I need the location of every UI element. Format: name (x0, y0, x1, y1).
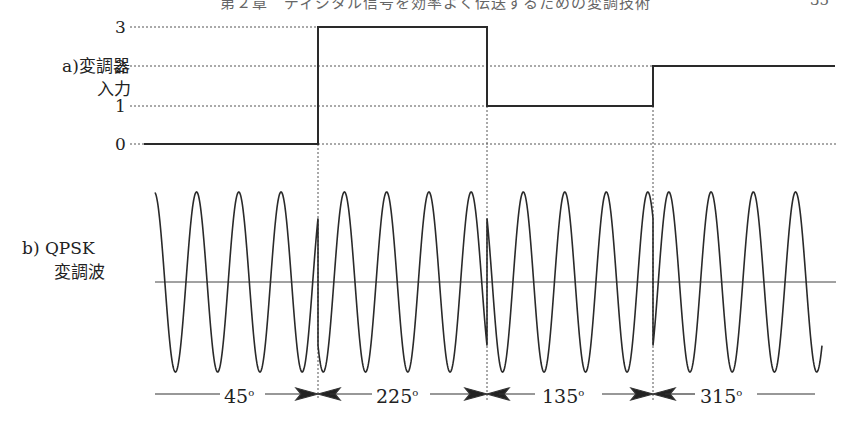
phase-value: 315 (700, 385, 736, 407)
qpsk-diagram (0, 0, 848, 423)
phase-value: 45 (224, 385, 248, 407)
phase-value: 135 (542, 385, 578, 407)
degree-mark: o (248, 387, 254, 398)
degree-mark: o (412, 387, 418, 398)
modulator-input-step-line (144, 27, 835, 144)
phase-value: 225 (376, 385, 412, 407)
phase-label-135: 135o (540, 383, 586, 406)
gridlines (130, 27, 838, 400)
degree-mark: o (736, 387, 742, 398)
degree-mark: o (578, 387, 584, 398)
phase-label-225: 225o (374, 383, 420, 406)
phase-label-315: 315o (698, 383, 744, 406)
phase-label-45: 45o (222, 383, 256, 406)
